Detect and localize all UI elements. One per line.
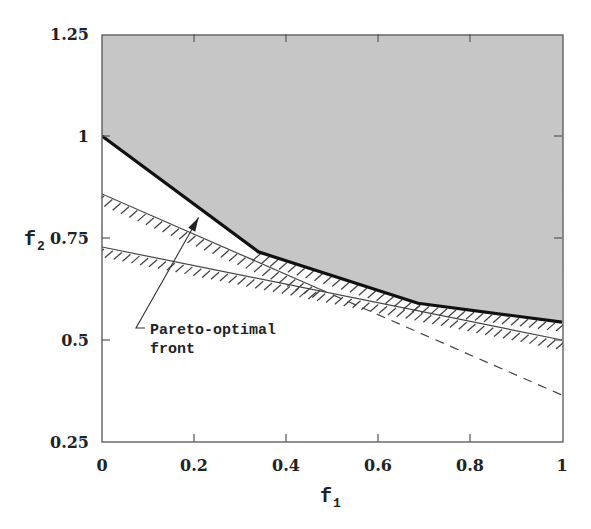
svg-text:1: 1 (556, 456, 567, 475)
svg-text:1: 1 (78, 127, 89, 146)
svg-text:0.25: 0.25 (50, 433, 89, 452)
svg-text:0.5: 0.5 (61, 331, 89, 350)
pareto-chart: 00.20.40.60.81 0.250.50.7511.25 Pareto-o… (0, 0, 591, 529)
svg-text:1: 1 (333, 496, 341, 511)
svg-text:0.2: 0.2 (180, 456, 208, 475)
svg-text:f: f (320, 485, 332, 508)
svg-text:0.75: 0.75 (50, 229, 89, 248)
feasible-region (100, 32, 564, 322)
y-axis-label: f 2 (24, 228, 45, 254)
x-axis-label: f 1 (320, 485, 341, 511)
svg-text:0.6: 0.6 (364, 456, 392, 475)
annotation-arrow (136, 218, 199, 328)
svg-text:0: 0 (96, 456, 107, 475)
annotation-label-line1: Pareto-optimal (150, 322, 276, 339)
svg-text:2: 2 (37, 239, 45, 254)
svg-text:0.4: 0.4 (272, 456, 300, 475)
svg-text:1.25: 1.25 (50, 25, 89, 44)
svg-text:f: f (24, 228, 36, 251)
annotation-label-line2: front (150, 341, 195, 358)
svg-text:0.8: 0.8 (456, 456, 484, 475)
